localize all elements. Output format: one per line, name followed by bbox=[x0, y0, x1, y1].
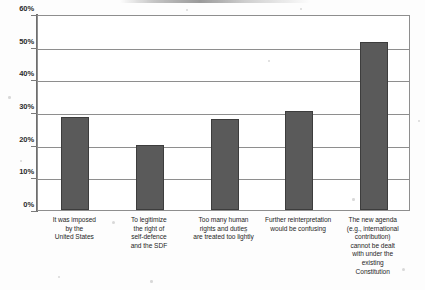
bar bbox=[61, 117, 89, 210]
bars bbox=[38, 16, 409, 210]
scan-speckle bbox=[268, 60, 270, 62]
bar bbox=[360, 42, 388, 210]
y-tick-label: 60% bbox=[0, 4, 34, 13]
x-category-label-line: with under the bbox=[330, 250, 416, 259]
x-category-label: It was imposedby theUnited States bbox=[37, 216, 111, 242]
scan-speckle bbox=[8, 96, 11, 99]
scan-speckle bbox=[418, 120, 420, 122]
cropped-title-artifact bbox=[120, 0, 310, 3]
x-category-label-line: To legitimize bbox=[112, 216, 186, 225]
x-category-label-line: cannot be dealt bbox=[330, 242, 416, 251]
scan-speckle bbox=[352, 198, 355, 201]
y-tick-label: 0% bbox=[0, 200, 34, 209]
scan-speckle bbox=[186, 9, 188, 11]
scan-speckle bbox=[244, 230, 247, 233]
x-category-label-line: existing bbox=[330, 259, 416, 268]
x-category-label-line: by the bbox=[37, 225, 111, 234]
x-axis: It was imposedby theUnited StatesTo legi… bbox=[37, 216, 410, 290]
x-category-label-line: United States bbox=[37, 233, 111, 242]
y-tick-mark bbox=[31, 48, 37, 49]
y-tick-mark bbox=[31, 146, 37, 147]
x-category-label-line: are treated too lightly bbox=[181, 233, 267, 242]
x-category-label-line: It was imposed bbox=[37, 216, 111, 225]
y-tick-mark bbox=[31, 113, 37, 114]
bar bbox=[136, 145, 164, 210]
x-category-label-line: self-defence bbox=[112, 233, 186, 242]
y-tick-label: 10% bbox=[0, 167, 34, 176]
x-category-label-line: and the SDF bbox=[112, 242, 186, 251]
y-tick-label: 50% bbox=[0, 36, 34, 45]
plot-area bbox=[37, 15, 410, 211]
bar-chart: 0%10%20%30%40%50%60% It was imposedby th… bbox=[0, 0, 425, 290]
y-tick-mark bbox=[31, 178, 37, 179]
scan-speckle bbox=[402, 268, 405, 271]
y-axis: 0%10%20%30%40%50%60% bbox=[0, 8, 34, 214]
scan-speckle bbox=[300, 8, 302, 10]
y-tick-mark bbox=[31, 80, 37, 81]
y-tick-label: 40% bbox=[0, 69, 34, 78]
x-category-label-line: contribution) bbox=[330, 233, 416, 242]
bar bbox=[285, 111, 313, 210]
y-tick-label: 20% bbox=[0, 134, 34, 143]
y-tick-label: 30% bbox=[0, 102, 34, 111]
y-tick-mark bbox=[31, 211, 37, 212]
x-category-label-line: The new agenda bbox=[330, 216, 416, 225]
x-category-label-line: (e.g., international bbox=[330, 225, 416, 234]
y-tick-mark bbox=[31, 15, 37, 16]
bar bbox=[211, 119, 239, 210]
x-category-label-line: the right of bbox=[112, 225, 186, 234]
x-category-label: To legitimizethe right ofself-defenceand… bbox=[112, 216, 186, 250]
scan-speckle bbox=[150, 280, 153, 283]
